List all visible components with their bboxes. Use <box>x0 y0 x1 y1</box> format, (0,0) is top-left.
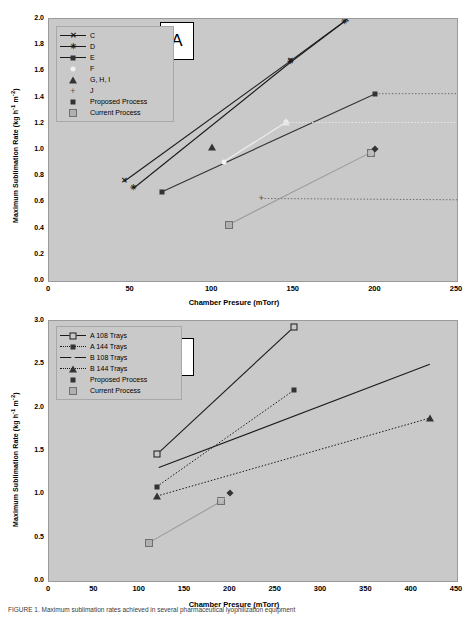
panel-a-legend-item[interactable]: Current Process <box>60 107 168 118</box>
marker-plus-icon: + <box>259 194 264 203</box>
y-tick-label: 2.0 <box>22 403 44 410</box>
marker-star-icon: ✳ <box>341 18 348 26</box>
series-line <box>229 153 371 225</box>
marker-diamond-icon <box>71 377 76 382</box>
marker-square-gray-icon <box>145 539 153 547</box>
panel-a: Maximum Sublimation Rate (kg h-1 m-2) ✕✕… <box>0 0 468 311</box>
panel-a-legend-item[interactable]: F <box>60 63 168 74</box>
legend-key <box>60 107 86 118</box>
y-tick-label: 2.0 <box>22 14 44 21</box>
legend-label: D <box>88 43 95 50</box>
x-tick-label: 100 <box>124 584 154 593</box>
panel-a-legend-item[interactable]: ✕C <box>60 30 168 41</box>
series-line <box>261 198 457 199</box>
y-tick-label: 1.2 <box>22 119 44 126</box>
x-tick-label: 100 <box>196 284 226 293</box>
legend-label: A 108 Trays <box>88 332 127 339</box>
marker-triangle-filled-icon <box>69 365 77 372</box>
y-tick-label: 1.4 <box>22 93 44 100</box>
marker-triangle-open-icon <box>153 465 161 472</box>
x-tick-label: 150 <box>169 584 199 593</box>
panel-b-legend-item[interactable]: Proposed Process <box>60 374 176 385</box>
panel-b-legend-item[interactable]: B 108 Trays <box>60 352 176 363</box>
series-line <box>149 501 222 543</box>
marker-plus-icon: + <box>70 86 75 95</box>
panel-b-legend-item[interactable]: Current Process <box>60 385 176 396</box>
legend-label: Proposed Process <box>88 98 147 105</box>
marker-triangle-open-icon <box>69 354 77 361</box>
legend-label: Current Process <box>88 109 141 116</box>
x-tick-label: 0 <box>33 584 63 593</box>
legend-label: Proposed Process <box>88 376 147 383</box>
panel-a-legend-item[interactable]: E <box>60 52 168 63</box>
legend-label: E <box>88 54 95 61</box>
x-tick-label: 450 <box>441 584 468 593</box>
legend-label: G, H, I <box>88 76 110 83</box>
legend-label: B 108 Trays <box>88 354 127 361</box>
panel-b-legend: A 108 TraysA 144 TraysB 108 TraysB 144 T… <box>56 326 182 400</box>
panel-a-legend-item[interactable]: Proposed Process <box>60 96 168 107</box>
panel-b-legend-item[interactable]: A 108 Trays <box>60 330 176 341</box>
y-tick-label: 1.0 <box>22 145 44 152</box>
x-tick-label: 350 <box>350 584 380 593</box>
marker-triangle-light-icon <box>282 119 290 126</box>
panel-a-legend-item[interactable]: G, H, I <box>60 74 168 85</box>
y-tick-label: 3.0 <box>22 316 44 323</box>
panel-a-legend-item[interactable]: +J <box>60 85 168 96</box>
legend-key <box>60 374 86 385</box>
legend-key <box>60 385 86 396</box>
legend-key <box>60 52 86 63</box>
panel-b-plot: B A 108 TraysA 144 TraysB 108 TraysB 144… <box>48 320 456 580</box>
legend-key: + <box>60 85 86 96</box>
marker-square-gray-icon <box>225 221 233 229</box>
marker-x-icon: ✕ <box>70 32 77 40</box>
series-line <box>157 418 430 496</box>
x-tick-label: 250 <box>441 284 468 293</box>
marker-triangle-filled-icon <box>426 415 434 422</box>
y-tick-label: 0.8 <box>22 171 44 178</box>
marker-star-icon: ✳ <box>130 184 137 192</box>
y-tick-label: 0.5 <box>22 533 44 540</box>
panel-a-plot: ✕✕✕✳✳✳+ A ✕C✳DEFG, H, I+JProposed Proces… <box>48 18 456 280</box>
panel-b: Maximum Sublimation Rate (kg h-1 m-2) B … <box>0 300 468 622</box>
marker-square-filled-icon <box>373 91 378 96</box>
legend-key: ✳ <box>60 41 86 52</box>
x-tick-label: 150 <box>278 284 308 293</box>
x-tick-label: 400 <box>396 584 426 593</box>
marker-square-open-icon <box>290 324 297 331</box>
y-tick-label: 2.5 <box>22 359 44 366</box>
panel-b-legend-item[interactable]: B 144 Trays <box>60 363 176 374</box>
x-tick-label: 50 <box>78 584 108 593</box>
marker-x-icon: ✕ <box>121 177 128 185</box>
legend-label: B 144 Trays <box>88 365 127 372</box>
x-tick-label: 250 <box>260 584 290 593</box>
legend-key <box>60 330 86 341</box>
marker-dot-light-icon <box>221 159 226 164</box>
marker-square-gray-icon <box>69 109 77 117</box>
legend-label: Current Process <box>88 387 141 394</box>
panel-b-legend-item[interactable]: A 144 Trays <box>60 341 176 352</box>
y-tick-label: 1.8 <box>22 40 44 47</box>
marker-triangle-filled-icon <box>208 144 216 151</box>
marker-square-gray-icon <box>69 387 77 395</box>
x-tick-label: 50 <box>115 284 145 293</box>
legend-key <box>60 74 86 85</box>
marker-triangle-filled-icon <box>153 493 161 500</box>
x-tick-label: 200 <box>214 584 244 593</box>
marker-dot-light-icon <box>71 66 76 71</box>
marker-square-filled-icon <box>71 55 76 60</box>
marker-star-icon: ✳ <box>70 43 77 51</box>
series-line <box>291 22 345 63</box>
panel-a-legend-item[interactable]: ✳D <box>60 41 168 52</box>
legend-key: ✕ <box>60 30 86 41</box>
legend-key <box>60 96 86 107</box>
marker-triangle-open-icon <box>426 368 434 375</box>
legend-label: J <box>88 87 94 94</box>
series-line <box>224 122 286 161</box>
y-tick-label: 0.4 <box>22 224 44 231</box>
figure-caption: FIGURE 1. Maximum sublimation rates achi… <box>8 606 460 620</box>
marker-square-filled-icon <box>154 484 159 489</box>
marker-star-icon: ✳ <box>287 58 294 66</box>
y-tick-label: 1.5 <box>22 446 44 453</box>
marker-diamond-icon <box>71 99 76 104</box>
